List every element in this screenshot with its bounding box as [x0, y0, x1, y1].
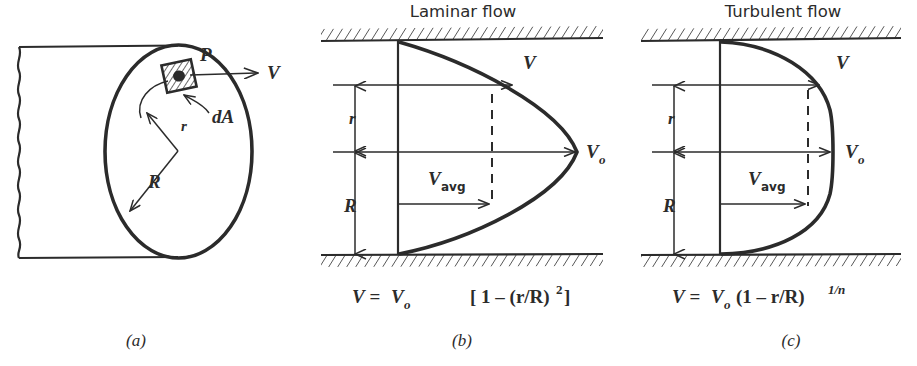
figure-canvas: R r dA P V (a) Laminar flow — [0, 0, 917, 366]
pipe-wall-top-line — [19, 46, 178, 48]
equation-b-rhs-exp: 2 — [556, 282, 563, 297]
radius-r-arrow — [147, 113, 178, 151]
wall-bottom-c-hatch — [641, 254, 901, 267]
equation-b: V = V o [ 1 – (r/R) 2 ] — [352, 282, 570, 312]
equation-c-rhs-rest: (1 – r/R) — [736, 286, 805, 308]
equation-c-rhs-v: V — [711, 286, 725, 307]
label-V-c: V — [836, 52, 850, 73]
label-V: V — [267, 62, 281, 83]
wall-bottom-b — [321, 254, 603, 267]
equation-c: V = V o (1 – r/R) 1/n — [672, 282, 845, 312]
label-V-b: V — [523, 52, 537, 73]
panel-c-title: Turbulent flow — [724, 2, 842, 21]
equation-b-rhs-close: ] — [564, 286, 570, 307]
panel-c-group: Turbulent flow r R — [641, 2, 901, 350]
panel-caption-a: (a) — [126, 331, 146, 350]
panel-b-group: Laminar flow r R — [321, 2, 606, 350]
wall-bottom-c — [641, 254, 901, 267]
equation-b-rhs-rest: [ 1 – (r/R) — [470, 286, 550, 308]
panel-caption-c: (c) — [782, 331, 801, 350]
velocity-profile-laminar — [399, 42, 577, 254]
label-Vo-b: V — [586, 141, 600, 162]
label-Vavg-b: V — [428, 168, 442, 189]
equation-b-eq: = — [370, 286, 381, 307]
dA-leader-line — [184, 95, 209, 113]
velocity-V-arrow — [190, 73, 258, 75]
equation-c-rhs-sub: o — [724, 297, 731, 312]
equation-b-rhs-v: V — [391, 286, 405, 307]
label-R-b: R — [343, 195, 357, 216]
label-Vo-b-sub: o — [599, 152, 606, 167]
label-R-c: R — [662, 195, 676, 216]
panel-a-group: R r dA P V (a) — [18, 44, 281, 350]
break-wavy-line — [18, 47, 20, 258]
label-Vavg-b-sub: avg — [441, 180, 466, 194]
label-dA: dA — [212, 106, 234, 127]
label-Vavg-c-sub: avg — [761, 180, 786, 194]
label-r: r — [181, 118, 187, 134]
panel-b-title: Laminar flow — [410, 2, 517, 21]
label-Vo-c: V — [845, 141, 859, 162]
label-Vavg-c: V — [748, 168, 762, 189]
wall-bottom-b-hatch — [321, 254, 603, 267]
wall-top-b — [321, 26, 603, 41]
radius-arc — [140, 81, 168, 118]
equation-c-lhs: V — [672, 286, 686, 307]
label-r-c: r — [668, 109, 675, 128]
wall-top-c — [641, 26, 901, 41]
label-r-b: r — [349, 109, 356, 128]
equation-c-rhs-exp: 1/n — [828, 282, 845, 297]
area-element-dA — [161, 59, 196, 93]
pipe-wall-bottom-line — [19, 257, 178, 258]
label-Vo-c-sub: o — [858, 152, 865, 167]
velocity-profile-turbulent — [721, 42, 833, 254]
panel-caption-b: (b) — [452, 331, 472, 350]
label-R: R — [147, 171, 161, 192]
figure-root: R r dA P V (a) Laminar flow — [0, 0, 917, 366]
equation-b-lhs: V — [352, 286, 366, 307]
equation-b-rhs-sub: o — [404, 297, 411, 312]
label-P: P — [199, 44, 212, 65]
equation-c-eq: = — [690, 286, 701, 307]
